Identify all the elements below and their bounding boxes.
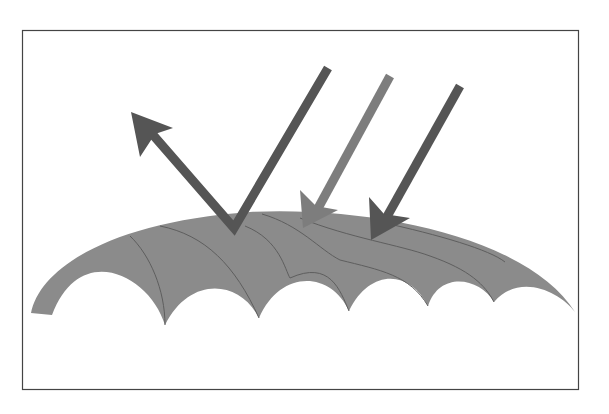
leaf-light-diagram xyxy=(0,0,609,414)
